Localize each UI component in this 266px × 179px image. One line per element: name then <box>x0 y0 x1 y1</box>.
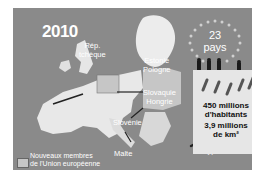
legend-swatch <box>17 158 29 168</box>
label-malta: Malte <box>114 150 132 159</box>
stats-box: 450 millions d'habitants 3,9 millions de… <box>193 70 252 154</box>
member-count-unit: pays <box>185 41 245 53</box>
legend-label: Nouveaux membres de l'Union européenne <box>30 152 100 167</box>
year-title: 2010 <box>42 22 78 42</box>
member-count-number: 23 <box>185 29 245 41</box>
label-slovakia-hungary: Slovaquie Hongrie <box>143 89 176 106</box>
population-stat: 450 millions d'habitants <box>193 102 252 119</box>
crowd-illustration-icon <box>193 70 252 98</box>
label-czech-republic: Rép. tchèque <box>79 42 106 59</box>
label-estonia-poland: Estonie Pologne <box>143 57 171 74</box>
eu-map-panel: 2010 Rép. tchèque Estonie Pologne Slovaq… <box>13 8 252 170</box>
label-slovenia: Slovénie <box>113 119 142 128</box>
member-count: 23 pays <box>185 29 245 53</box>
area-stat: 3,9 millions de km² <box>193 122 252 139</box>
